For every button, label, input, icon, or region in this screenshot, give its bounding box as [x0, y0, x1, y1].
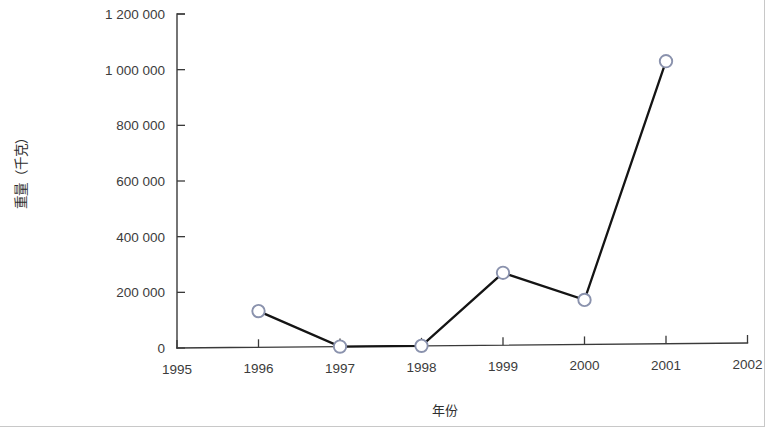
data-point-2000 — [578, 294, 590, 306]
data-point-2001 — [660, 55, 672, 67]
y-axis-title: 重量（千克） — [13, 131, 29, 209]
data-point-1999 — [497, 267, 509, 279]
y-tick-label: 0 — [157, 341, 165, 356]
chart-page: 0200 000400 000600 000800 0001 000 0001 … — [0, 0, 765, 427]
y-axis-tick-labels: 0200 000400 000600 000800 0001 000 0001 … — [105, 7, 165, 356]
x-tick-label: 1997 — [325, 361, 355, 376]
data-point-1996 — [252, 305, 264, 317]
x-tick-label: 2002 — [732, 357, 762, 372]
x-tick-label: 1995 — [162, 362, 192, 377]
y-axis-ticks — [177, 14, 185, 348]
x-axis-tick-labels: 19951996199719981999200020012002 — [162, 357, 763, 377]
y-tick-label: 800 000 — [116, 118, 165, 133]
y-tick-label: 1 200 000 — [105, 7, 165, 22]
x-tick-label: 1996 — [243, 361, 273, 376]
data-point-1998 — [415, 340, 427, 352]
x-tick-label: 1998 — [406, 360, 436, 375]
x-axis-title: 年份 — [432, 403, 458, 418]
line-chart: 0200 000400 000600 000800 0001 000 0001 … — [0, 0, 765, 427]
y-tick-label: 600 000 — [116, 174, 165, 189]
y-tick-label: 200 000 — [116, 285, 165, 300]
x-axis-line — [177, 343, 748, 348]
data-point-1997 — [334, 340, 346, 352]
x-tick-label: 2001 — [651, 358, 681, 373]
y-tick-label: 400 000 — [116, 230, 165, 245]
y-tick-label: 1 000 000 — [105, 63, 165, 78]
x-tick-label: 1999 — [488, 359, 518, 374]
series-line — [259, 61, 667, 346]
x-tick-label: 2000 — [569, 358, 599, 373]
